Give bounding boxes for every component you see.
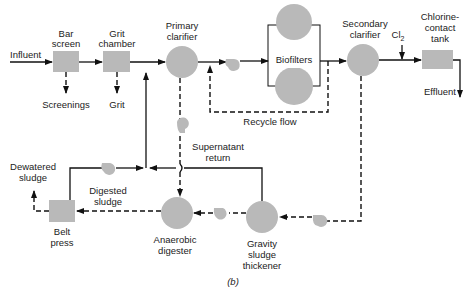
- svg-text:Secondary: Secondary: [342, 18, 388, 29]
- svg-text:sludge: sludge: [94, 196, 122, 207]
- gravity-sludge-thickener: Gravity sludge thickener: [243, 201, 282, 271]
- influent-line: Influent: [10, 49, 52, 62]
- svg-text:Recycle flow: Recycle flow: [243, 116, 296, 127]
- supernatant-return: Supernatant return: [146, 73, 262, 201]
- svg-text:Supernatant: Supernatant: [192, 141, 244, 152]
- svg-text:clarifier: clarifier: [350, 29, 381, 40]
- grit-label: Grit: [109, 99, 125, 110]
- pump-icon: [177, 117, 189, 133]
- screenings-label: Screenings: [42, 99, 90, 110]
- bar-screen: Bar screen Screenings: [42, 28, 90, 110]
- chlorine-contact-tank: Chlorine- contact tank Effluent: [421, 11, 460, 97]
- biofilters-label: Biofilters: [276, 54, 313, 65]
- svg-text:Belt: Belt: [54, 226, 71, 237]
- pump-icon: [225, 59, 239, 71]
- figure-caption: (b): [227, 276, 239, 287]
- svg-text:press: press: [50, 237, 73, 248]
- primary-sludge: [177, 78, 189, 196]
- belt-press: Belt press: [49, 200, 75, 248]
- svg-text:tank: tank: [431, 33, 449, 44]
- svg-text:sludge: sludge: [248, 249, 276, 260]
- biofilters: Biofilters: [268, 4, 320, 105]
- pump-icon: [101, 163, 115, 175]
- effluent-label: Effluent: [424, 86, 456, 97]
- primary-clarifier: Primary clarifier: [166, 20, 199, 78]
- anaerobic-digester: Anaerobic digester: [154, 197, 197, 256]
- svg-text:Digested: Digested: [89, 185, 127, 196]
- svg-text:sludge: sludge: [19, 172, 47, 183]
- process-flow-diagram: Influent Bar screen Screenings Grit cham…: [0, 0, 470, 288]
- secondary-clarifier: Secondary clarifier: [342, 18, 388, 76]
- svg-text:screen: screen: [52, 38, 81, 49]
- svg-text:digester: digester: [158, 245, 192, 256]
- svg-text:Gravity: Gravity: [247, 238, 277, 249]
- influent-label: Influent: [10, 49, 42, 60]
- pump-icon: [214, 208, 227, 220]
- svg-text:return: return: [206, 152, 231, 163]
- svg-text:Anaerobic: Anaerobic: [154, 234, 197, 245]
- grit-chamber-box: [103, 51, 130, 72]
- svg-text:clarifier: clarifier: [167, 31, 198, 42]
- svg-text:contact: contact: [425, 22, 456, 33]
- svg-text:thickener: thickener: [243, 260, 282, 271]
- svg-text:chamber: chamber: [99, 38, 136, 49]
- svg-text:Chlorine-: Chlorine-: [421, 11, 460, 22]
- svg-text:Primary: Primary: [166, 20, 199, 31]
- chlorine-dose: Cl2: [392, 29, 405, 59]
- grit-chamber: Grit chamber Grit: [99, 28, 136, 110]
- bar-screen-box: [53, 51, 79, 72]
- svg-text:Dewatered: Dewatered: [10, 161, 56, 172]
- pump-icon: [313, 215, 327, 227]
- svg-text:Cl2: Cl2: [392, 29, 405, 42]
